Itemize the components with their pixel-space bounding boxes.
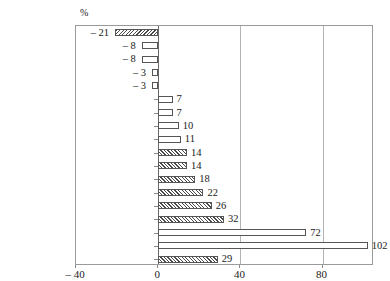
bar-row: 7: [76, 93, 372, 106]
bar-value-label: – 8: [123, 40, 136, 52]
bar-row: 26: [76, 199, 372, 212]
bar-value-label: 72: [310, 227, 321, 239]
bar-value-label: 14: [191, 147, 202, 159]
bar-row: 7: [76, 106, 372, 119]
bar-value-label: – 3: [133, 80, 146, 92]
x-tick-label: 80: [316, 268, 327, 281]
bar: [158, 96, 172, 103]
bar-row: 18: [76, 173, 372, 186]
x-tick-label: 40: [234, 268, 245, 281]
bar-row: – 3: [76, 79, 372, 92]
bar-row: – 8: [76, 39, 372, 52]
bar-value-label: 7: [177, 107, 182, 119]
bar-value-label: 29: [222, 253, 233, 265]
bar-value-label: 7: [177, 93, 182, 105]
bar: [158, 189, 203, 196]
bar-row: 29: [76, 253, 372, 266]
bar-value-label: – 8: [123, 53, 136, 65]
bar-row: 72: [76, 226, 372, 239]
x-tick-label: 0: [154, 268, 160, 281]
bar: [158, 256, 218, 263]
bar: [158, 229, 306, 236]
bar-row: – 8: [76, 53, 372, 66]
bar-row: 14: [76, 146, 372, 159]
bar: [158, 122, 179, 129]
bar: [115, 29, 158, 36]
bar-row: 10: [76, 119, 372, 132]
bar-row: – 3: [76, 66, 372, 79]
unit-label: %: [80, 8, 88, 18]
bar: [158, 202, 211, 209]
bar: [158, 176, 195, 183]
bar-row: 102: [76, 239, 372, 252]
bar: [152, 69, 158, 76]
bar: [158, 162, 187, 169]
bar-row: 22: [76, 186, 372, 199]
bar: [158, 109, 172, 116]
plot-area: – 21– 8– 8– 3– 3771011141418222632721022…: [75, 25, 373, 265]
bar-value-label: 102: [372, 240, 388, 252]
bar-value-label: 18: [199, 173, 210, 185]
bar: [158, 149, 187, 156]
bar-chart: % GermanyAustriaFinlandBelgiumFranceNeth…: [0, 0, 390, 281]
bar: [158, 242, 368, 249]
bar-value-label: 14: [191, 160, 202, 172]
bar-value-label: 22: [207, 187, 218, 199]
bar-value-label: 11: [185, 133, 195, 145]
bar: [142, 56, 158, 63]
bar: [158, 136, 181, 143]
bar-row: 11: [76, 133, 372, 146]
bar-value-label: 26: [216, 200, 227, 212]
x-axis: – 4004080: [75, 265, 373, 281]
bar-row: 14: [76, 159, 372, 172]
bar-value-label: – 21: [91, 27, 109, 39]
bar-row: – 21: [76, 26, 372, 39]
x-tick-label: – 40: [65, 268, 84, 281]
bar: [152, 82, 158, 89]
bar-value-label: – 3: [133, 67, 146, 79]
bar-value-label: 32: [228, 213, 239, 225]
bar-row: 32: [76, 213, 372, 226]
bar-value-label: 10: [183, 120, 194, 132]
bar: [158, 216, 224, 223]
bar: [142, 42, 158, 49]
